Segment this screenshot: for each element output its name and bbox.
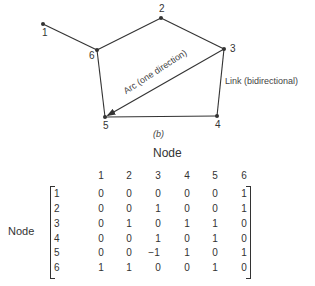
matrix-cell: 0	[93, 188, 109, 199]
matrix-cell: 0	[121, 233, 137, 244]
matrix-cell: 0	[150, 188, 166, 199]
matrix-cell: 0	[207, 247, 223, 258]
node-4-label: 4	[215, 120, 221, 130]
matrix-cell: 1	[207, 233, 223, 244]
link-6-2	[97, 18, 161, 50]
matrix-cell: −1	[146, 247, 162, 258]
node-4-dot	[215, 114, 219, 118]
matrix-cell: 0	[93, 203, 109, 214]
matrix-cell: 1	[121, 262, 137, 273]
matrix-cell: 1	[207, 218, 223, 229]
matrix-cell: 1	[150, 203, 166, 214]
node-3-dot	[222, 47, 226, 51]
matrix-cell: 0	[150, 218, 166, 229]
matrix-cell: 0	[150, 262, 166, 273]
matrix-cell: 0	[207, 203, 223, 214]
col-header-3: 3	[152, 170, 164, 181]
matrix-cell: 0	[93, 247, 109, 258]
matrix-cell: 0	[93, 233, 109, 244]
link-2-3	[161, 18, 224, 49]
node-1-dot	[41, 22, 45, 26]
node-5-dot	[103, 115, 107, 119]
matrix-cell: 1	[179, 247, 195, 258]
node-3-label: 3	[230, 44, 236, 54]
edges	[43, 18, 224, 117]
matrix-cell: 1	[93, 262, 109, 273]
node-6-dot	[95, 48, 99, 52]
col-header-4: 4	[181, 170, 193, 181]
matrix-cell: 0	[179, 203, 195, 214]
figure-caption: (b)	[153, 129, 164, 139]
matrix-column-title: Node	[153, 146, 182, 160]
matrix-cell: 0	[121, 203, 137, 214]
matrix-cell: 1	[179, 218, 195, 229]
node-2-dot	[159, 16, 163, 20]
matrix-cell: 1	[150, 233, 166, 244]
matrix-cell: 0	[207, 188, 223, 199]
col-header-2: 2	[123, 170, 135, 181]
node-5-label: 5	[103, 121, 109, 131]
matrix-left-bracket	[50, 186, 55, 279]
matrix-right-bracket	[246, 186, 251, 279]
node-1-label: 1	[42, 28, 48, 38]
link-5-6	[97, 50, 105, 117]
matrix-cell: 0	[179, 262, 195, 273]
link-1-6	[43, 24, 97, 50]
col-header-6: 6	[238, 170, 250, 181]
matrix-cell: 1	[121, 218, 137, 229]
node-2-label: 2	[159, 4, 165, 14]
matrix-cell: 0	[121, 247, 137, 258]
matrix-cell: 0	[121, 188, 137, 199]
matrix-cell: 0	[179, 188, 195, 199]
col-header-1: 1	[95, 170, 107, 181]
matrix-cell: 0	[93, 218, 109, 229]
node-6-label: 6	[89, 51, 95, 61]
link-3-4	[217, 49, 224, 116]
matrix-cell: 0	[179, 233, 195, 244]
col-header-5: 5	[209, 170, 221, 181]
matrix-row-title: Node	[8, 225, 34, 237]
link-4-5	[105, 116, 217, 117]
link-label: Link (bidirectional)	[225, 76, 298, 86]
matrix-cell: 1	[207, 262, 223, 273]
